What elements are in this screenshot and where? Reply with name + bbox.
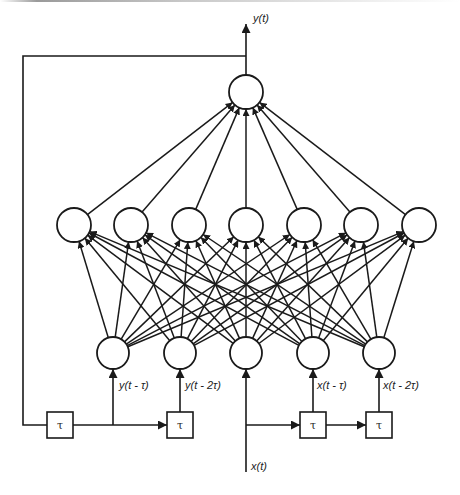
delay-block-label: τ: [376, 419, 382, 432]
input-hidden-edge: [79, 241, 108, 337]
input-to-hidden-connections: [79, 232, 414, 347]
neural-network-diagram: y(t) τ τ τ τ y(t - τ) y(t - 2τ) x(t - τ)…: [0, 0, 460, 495]
hidden-neuron: [402, 208, 436, 242]
hidden-output-edge: [257, 105, 350, 212]
input-neuron: [297, 337, 329, 369]
input-hidden-edge: [193, 235, 347, 344]
delay-block-1: τ: [47, 412, 73, 438]
delay-block-2: τ: [167, 412, 193, 438]
hidden-output-edge: [253, 108, 297, 210]
hidden-output-edge: [260, 102, 406, 214]
input-hidden-edge: [259, 235, 405, 343]
input-hidden-edge: [384, 241, 414, 338]
hidden-neuron: [114, 208, 148, 242]
hidden-output-edge: [196, 108, 240, 210]
y-delay-2-label: y(t - 2τ): [184, 379, 221, 391]
x-delay-1-label: x(t - τ): [316, 379, 347, 391]
delay-block-label: τ: [310, 419, 316, 432]
input-neuron: [97, 337, 129, 369]
input-hidden-edge: [88, 235, 234, 343]
input-neuron: [164, 337, 196, 369]
hidden-neuron: [229, 208, 263, 242]
hidden-output-edge: [87, 102, 232, 214]
input-hidden-edge: [191, 237, 292, 341]
output-label: y(t): [252, 12, 269, 24]
delay-block-label: τ: [177, 419, 183, 432]
hidden-to-output-connections: [87, 102, 405, 214]
input-hidden-edge: [128, 232, 404, 347]
y-delay-1-label: y(t - τ): [118, 379, 149, 391]
input-hidden-edge: [90, 232, 365, 347]
x-delay-2-label: x(t - 2τ): [382, 379, 419, 391]
hidden-neuron: [344, 208, 378, 242]
delay-block-3: τ: [300, 412, 326, 438]
hidden-neuron: [172, 208, 206, 242]
input-neuron: [363, 337, 395, 369]
output-neuron: [229, 75, 263, 109]
hidden-output-edge: [142, 105, 235, 212]
hidden-neuron: [287, 208, 321, 242]
hidden-neuron: [57, 208, 91, 242]
input-neuron: [230, 337, 262, 369]
delay-block-label: τ: [57, 419, 63, 432]
input-hidden-edge: [201, 237, 302, 341]
input-signal-label: x(t): [250, 460, 267, 472]
delay-block-4: τ: [366, 412, 392, 438]
